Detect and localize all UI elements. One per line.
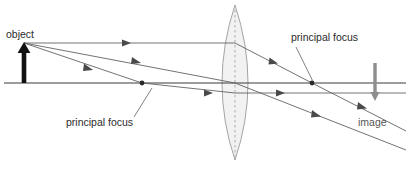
arrowhead-centre-2: [311, 110, 321, 118]
arrowhead-parallel-1: [122, 40, 131, 47]
leader-line-focus-left: [134, 88, 152, 117]
ray-group: [24, 43, 406, 150]
image-arrow: [370, 63, 379, 101]
focus-dot-left: [140, 81, 145, 86]
object-label: object: [6, 28, 34, 40]
lens-ray-diagram: object image principal focus principal f…: [0, 0, 410, 171]
ray-through-centre: [24, 43, 406, 150]
arrowhead-focal-2: [276, 90, 285, 97]
principal-focus-label-right: principal focus: [291, 31, 358, 43]
arrowhead-parallel-2: [269, 58, 279, 65]
principal-focus-label-left: principal focus: [66, 116, 133, 128]
image-arrow-head: [370, 92, 379, 101]
image-label: image: [358, 116, 387, 128]
focus-dot-right: [310, 81, 315, 86]
leader-line-focus-right: [296, 47, 313, 81]
arrowhead-parallel-3: [357, 102, 367, 110]
ray-through-focus: [24, 43, 406, 93]
arrowhead-centre-1: [131, 57, 141, 64]
object-arrow: [18, 42, 31, 83]
diagram-canvas: object image principal focus principal f…: [0, 0, 410, 171]
